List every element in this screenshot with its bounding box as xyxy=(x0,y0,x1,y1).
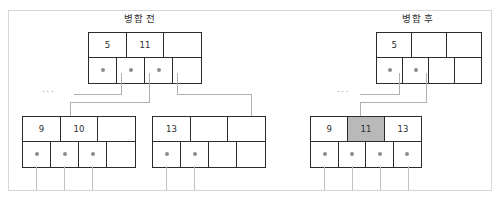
connector-segment xyxy=(149,73,150,103)
node-before-child-right: 13 xyxy=(152,116,266,168)
connector-segment xyxy=(251,94,252,116)
pointer-cell xyxy=(338,141,367,168)
pointer-cell xyxy=(152,141,182,168)
pointer-cell xyxy=(393,141,422,168)
pointer-dot-icon xyxy=(193,152,197,156)
node-after-parent: 5 xyxy=(376,32,482,84)
node-pointer-row xyxy=(376,58,482,84)
pointer-cell xyxy=(22,141,52,168)
caption-after-merge: 병합 후 xyxy=(368,11,468,25)
node-before-parent: 5 11 xyxy=(88,32,202,84)
pointer-dot-icon xyxy=(388,68,392,72)
leaf-stem xyxy=(92,166,93,190)
pointer-cell xyxy=(208,141,238,168)
key-cell xyxy=(411,32,447,58)
pointer-cell xyxy=(88,57,118,84)
pointer-dot-icon xyxy=(323,152,327,156)
key-cell: 10 xyxy=(60,116,99,142)
node-key-row: 5 xyxy=(376,32,482,58)
pointer-dot-icon xyxy=(91,152,95,156)
connector-segment xyxy=(74,94,122,95)
key-cell: 5 xyxy=(88,32,127,58)
key-cell: 13 xyxy=(384,116,422,142)
pointer-cell xyxy=(310,141,339,168)
node-key-row: 5 11 xyxy=(88,32,202,58)
connector-segment xyxy=(360,102,427,103)
leaf-stem xyxy=(352,166,353,190)
pointer-cell xyxy=(454,57,482,84)
key-cell: 5 xyxy=(376,32,412,58)
pointer-dot-icon xyxy=(414,68,418,72)
connector-segment xyxy=(177,94,252,95)
leaf-stem xyxy=(36,166,37,190)
pointer-dot-icon xyxy=(129,68,133,72)
connector-segment xyxy=(399,73,400,95)
leaf-stem xyxy=(324,166,325,190)
leaf-stem xyxy=(64,166,65,190)
leaf-stem xyxy=(408,166,409,190)
key-cell xyxy=(446,32,482,58)
ellipsis-left: ... xyxy=(42,84,55,94)
key-cell: 11 xyxy=(126,32,165,58)
node-pointer-row xyxy=(88,58,202,84)
pointer-cell xyxy=(365,141,394,168)
node-key-row: 9 10 xyxy=(22,116,136,142)
caption-before-merge: 병합 전 xyxy=(90,11,190,25)
pointer-dot-icon xyxy=(165,152,169,156)
key-cell-highlighted: 11 xyxy=(347,116,385,142)
key-cell xyxy=(163,32,202,58)
connector-segment xyxy=(70,102,150,103)
pointer-cell xyxy=(106,141,136,168)
leaf-stem xyxy=(166,166,167,190)
pointer-dot-icon xyxy=(63,152,67,156)
node-before-child-left: 9 10 xyxy=(22,116,136,168)
pointer-dot-icon xyxy=(405,152,409,156)
pointer-dot-icon xyxy=(378,152,382,156)
pointer-cell xyxy=(50,141,80,168)
connector-segment xyxy=(121,73,122,95)
node-key-row: 9 11 13 xyxy=(310,116,422,142)
connector-segment xyxy=(360,102,361,116)
ellipsis-right: ... xyxy=(337,84,350,94)
connector-segment xyxy=(177,73,178,95)
key-cell: 13 xyxy=(152,116,191,142)
node-after-merged-child: 9 11 13 xyxy=(310,116,422,168)
pointer-cell xyxy=(428,57,456,84)
key-cell xyxy=(97,116,136,142)
diagram-canvas: 병합 전 병합 후 5 11 ... 9 10 xyxy=(0,0,500,207)
node-pointer-row xyxy=(152,142,266,168)
node-key-row: 13 xyxy=(152,116,266,142)
key-cell xyxy=(190,116,229,142)
connector-segment xyxy=(70,102,71,116)
key-cell: 9 xyxy=(310,116,348,142)
pointer-dot-icon xyxy=(350,152,354,156)
key-cell: 9 xyxy=(22,116,61,142)
key-cell xyxy=(227,116,266,142)
connector-segment xyxy=(426,73,427,103)
pointer-dot-icon xyxy=(101,68,105,72)
connector-segment xyxy=(360,94,400,95)
pointer-cell xyxy=(180,141,210,168)
leaf-stem xyxy=(194,166,195,190)
node-pointer-row xyxy=(310,142,422,168)
node-pointer-row xyxy=(22,142,136,168)
leaf-stem xyxy=(380,166,381,190)
pointer-cell xyxy=(236,141,266,168)
pointer-dot-icon xyxy=(157,68,161,72)
pointer-dot-icon xyxy=(35,152,39,156)
pointer-cell xyxy=(78,141,108,168)
